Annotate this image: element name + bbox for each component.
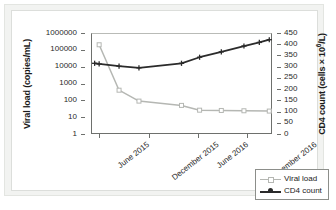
right-axis-tick-mark [277, 33, 281, 34]
right-axis-tick-mark [277, 55, 281, 56]
data-point-marker [136, 65, 141, 70]
left-axis-tick-label: 1000000 [46, 29, 77, 37]
right-axis-ticks: 050100150200250300350400450 [277, 33, 307, 134]
data-point-marker [241, 43, 246, 48]
left-axis-ticks: 1101001000100001000001000000 [30, 33, 85, 134]
left-axis-tick-label: 1000 [59, 79, 77, 87]
left-axis-tick-mark [81, 84, 85, 85]
chart-panel: Viral load (copies/mL) CD4 count (cells … [11, 10, 318, 191]
x-axis-tick-mark [149, 134, 150, 138]
plot-area [91, 33, 272, 134]
legend-swatch-icon [260, 186, 281, 196]
legend-entry: Viral load [260, 173, 324, 185]
data-point-marker [97, 61, 102, 66]
right-axis-tick-label: 50 [284, 118, 293, 126]
left-axis-tick-mark [81, 67, 85, 68]
right-axis-tick-mark [277, 67, 281, 68]
chart-legend: Viral loadCD4 count [255, 169, 329, 200]
data-point-marker [116, 64, 121, 69]
right-axis-tick-mark [277, 44, 281, 45]
right-axis-tick-label: 200 [284, 85, 297, 93]
right-axis-tick-mark [277, 123, 281, 124]
data-point-marker [97, 43, 101, 47]
left-axis-tick-mark [81, 100, 85, 101]
chart-figure: Viral load (copies/mL) CD4 count (cells … [0, 0, 336, 210]
legend-label: Viral load [284, 175, 317, 183]
right-axis-tick-label: 450 [284, 29, 297, 37]
x-axis-tick-mark [247, 134, 248, 138]
data-point-marker [92, 61, 97, 66]
right-axis-tick-mark [277, 78, 281, 79]
right-axis-tick-label: 0 [284, 130, 288, 138]
data-point-marker [197, 55, 202, 60]
right-axis-tick-label: 150 [284, 96, 297, 104]
left-axis-tick-label: 1 [73, 130, 77, 138]
right-axis-title: CD4 count (cells × 106/L) [317, 20, 327, 148]
data-point-marker [180, 103, 184, 107]
data-point-marker [117, 88, 121, 92]
data-point-marker [242, 109, 246, 113]
right-axis-tick-mark [277, 100, 281, 101]
right-axis-tick-mark [277, 112, 281, 113]
left-axis-tick-mark [81, 50, 85, 51]
right-axis-tick-mark [277, 89, 281, 90]
right-axis-tick-label: 100 [284, 107, 297, 115]
series-layer [91, 33, 272, 134]
left-axis-tick-mark [81, 33, 85, 34]
data-point-marker [267, 37, 272, 42]
left-axis-tick-mark [81, 117, 85, 118]
right-axis-tick-label: 250 [284, 73, 297, 81]
x-axis-tick-label: June 2016 [215, 140, 250, 170]
x-axis-tick-mark [99, 134, 100, 138]
right-axis-tick-label: 400 [284, 40, 297, 48]
data-point-marker [257, 40, 262, 45]
left-axis-tick-label: 10 [68, 113, 77, 121]
data-point-marker [179, 61, 184, 66]
x-axis-ticks: June 2015December 2015June 2016December … [91, 134, 272, 194]
data-point-marker [137, 99, 141, 103]
left-axis-tick-label: 100000 [50, 45, 77, 53]
right-axis-tick-label: 350 [284, 51, 297, 59]
x-axis-tick-mark [198, 134, 199, 138]
right-axis-tick-label: 300 [284, 62, 297, 70]
x-axis-tick-label: June 2015 [116, 140, 151, 170]
data-point-marker [267, 109, 271, 113]
data-point-marker [219, 49, 224, 54]
data-point-marker [219, 108, 223, 112]
right-axis-tick-mark [277, 134, 281, 135]
left-axis-tick-mark [81, 134, 85, 135]
x-axis-tick-label: December 2015 [170, 140, 220, 182]
legend-swatch-icon [260, 174, 281, 184]
data-point-marker [198, 108, 202, 112]
legend-label: CD4 count [284, 187, 322, 195]
legend-entry: CD4 count [260, 185, 324, 197]
left-axis-tick-label: 10000 [55, 62, 77, 70]
left-axis-tick-label: 100 [64, 96, 77, 104]
series-line-viral-load [99, 45, 269, 111]
